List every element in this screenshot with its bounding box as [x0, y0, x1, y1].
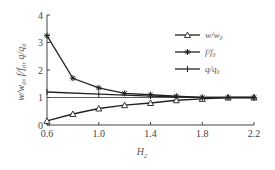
legend-item: w/w₀ — [175, 30, 223, 40]
x-tick-label: 2.2 — [248, 128, 261, 139]
legend-item: f/f₀ — [175, 47, 216, 57]
legend-label: f/f₀ — [205, 47, 216, 57]
y-tick-label: 2 — [38, 65, 43, 76]
star-marker-icon — [70, 75, 76, 81]
x-tick-label: 1.0 — [93, 128, 106, 139]
x-tick-label: 1.8 — [196, 128, 209, 139]
y-axis-label: w/w₀, f/f₀, q/q₀ — [15, 43, 26, 101]
y-tick-label: 1 — [38, 92, 43, 103]
y-tick-label: 0 — [38, 120, 43, 131]
series-q-q-0 — [47, 89, 254, 101]
star-marker-icon — [96, 85, 102, 91]
axis-ticks: 0.61.01.41.82.201234 — [38, 10, 260, 140]
legend-label: q/q₀ — [205, 64, 220, 74]
data-series — [44, 33, 257, 124]
x-axis-label: H2 — [136, 146, 148, 160]
line-chart: 0.61.01.41.82.201234 w/w₀, f/f₀, q/q₀ H2… — [0, 0, 275, 170]
star-marker-icon — [185, 49, 191, 55]
legend-item: q/q₀ — [175, 64, 220, 74]
y-tick-label: 4 — [38, 10, 43, 21]
legend: w/w₀f/f₀q/q₀ — [175, 30, 223, 74]
star-marker-icon — [44, 33, 50, 39]
x-tick-label: 1.4 — [144, 128, 157, 139]
series-f-f-0 — [44, 33, 257, 101]
legend-label: w/w₀ — [205, 30, 223, 40]
y-tick-label: 3 — [38, 37, 43, 48]
